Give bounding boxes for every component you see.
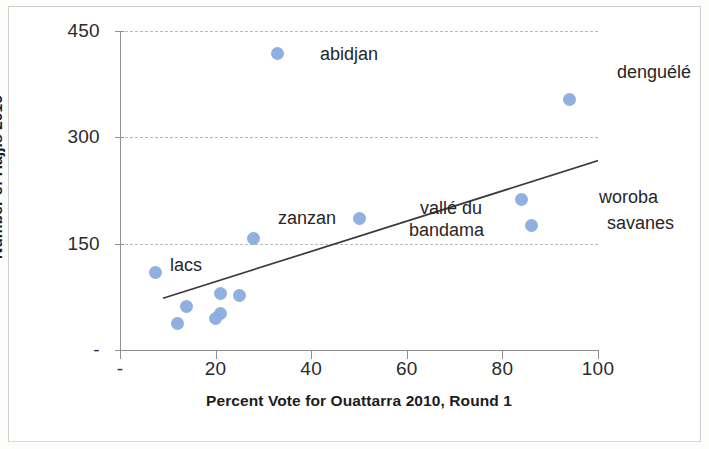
x-axis-line: [120, 350, 598, 351]
x-tick-label-60: 60: [372, 358, 442, 380]
y-axis-line: [120, 31, 121, 350]
gridline-450: [120, 31, 598, 32]
y-tick-300: [115, 137, 124, 138]
y-tick-150: [115, 244, 124, 245]
x-tick-label-100: 100: [563, 358, 633, 380]
point-label: vallé du: [420, 198, 482, 219]
point-label: woroba: [599, 187, 658, 208]
point-label: abidjan: [320, 44, 378, 65]
x-tick-label-80: 80: [467, 358, 537, 380]
x-tick-label-0: -: [85, 358, 155, 380]
point-label: savanes: [607, 213, 674, 234]
data-point: [180, 300, 193, 313]
data-point: [149, 266, 162, 279]
y-tick-label-300: 300: [40, 126, 100, 148]
data-point: [214, 287, 227, 300]
data-point: [563, 93, 576, 106]
figure-container: 450 300 150 - - 20 40 60 80 100 Percent …: [0, 0, 709, 449]
y-tick-label-450: 450: [40, 20, 100, 42]
y-tick-450: [115, 31, 124, 32]
figure-bottom-rule: [8, 441, 701, 442]
x-tick-label-40: 40: [276, 358, 346, 380]
y-tick-label-150: 150: [40, 233, 100, 255]
x-axis-title: Percent Vote for Ouattarra 2010, Round 1: [120, 392, 598, 410]
data-point: [353, 212, 366, 225]
point-label: zanzan: [278, 208, 336, 229]
data-point: [171, 317, 184, 330]
data-point: [525, 219, 538, 232]
y-axis-title: Number of Hajjis 2016: [0, 12, 6, 342]
point-label: lacs: [170, 255, 202, 276]
point-label: denguélé: [617, 62, 691, 83]
gridline-300: [120, 137, 598, 138]
data-point: [214, 307, 227, 320]
plot-area: [120, 31, 598, 350]
x-tick-label-20: 20: [181, 358, 251, 380]
data-point: [515, 193, 528, 206]
data-point: [233, 289, 246, 302]
point-label: bandama: [409, 220, 484, 241]
gridline-150: [120, 244, 598, 245]
data-point: [271, 47, 284, 60]
